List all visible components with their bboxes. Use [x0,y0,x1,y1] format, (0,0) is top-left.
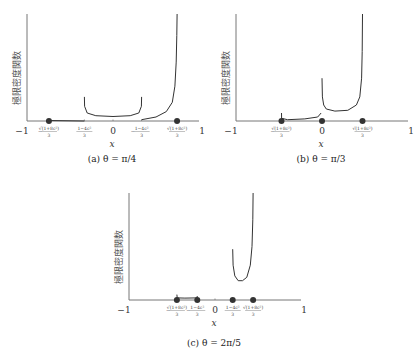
y-axis-label: 極限密度関数 [11,51,22,105]
panel-caption: (a) θ = π/4 [88,154,137,164]
density-curve-middle-u [84,97,141,117]
x-axis-label: x [109,139,114,149]
tick-denominator: 3 [140,133,143,138]
density-curve-left-flat [177,295,197,299]
tick-label-fraction: 1−4c²3 [76,126,92,138]
y-axis-label: 極限密度関数 [113,230,124,284]
density-curve-right-rise [142,14,178,120]
tick-numerator: 1−4c² [226,305,240,310]
tick-label-fraction: −√(1+8c²)3 [38,126,59,138]
x-axis-label: x [318,139,323,149]
tick-label: 1 [199,126,205,136]
chart-panel-c: 極限密度関数−1−√(1+8c²)3−1−4c²301−4c²3√(1+8c²)… [113,193,307,348]
tick-denominator: 3 [175,312,178,317]
tick-label: −1 [15,126,28,136]
tick-denominator: 3 [252,312,255,317]
tick-denominator: 3 [47,133,50,138]
tick-label-fraction: 1−4c²3 [225,305,241,317]
panel-caption: (c) θ = 2π/5 [187,338,241,348]
tick-label-fraction: −√(1+8c²)3 [270,126,291,138]
tick-denominator: 3 [176,133,179,138]
tick-label-fraction: −1−4c²3 [186,305,205,317]
tick-label: 1 [408,126,414,136]
density-curve-right-u [322,14,363,111]
panel-caption: (b) θ = π/3 [297,154,346,164]
atom-point [250,297,256,303]
tick-label: 0 [319,126,325,136]
tick-label: 0 [110,126,116,136]
tick-label-fraction: √(1+8c²)3 [243,305,263,317]
tick-denominator: 3 [280,133,283,138]
tick-numerator: √(1+8c²) [167,126,187,131]
tick-label: 0 [212,305,218,315]
tick-numerator: √(1+8c²) [167,305,187,310]
tick-numerator: 1−4c² [190,305,204,310]
tick-label-fraction: √(1+8c²)3 [167,126,187,138]
atom-point [174,297,180,303]
atom-point [174,118,180,124]
tick-label-fraction: −1−4c²3 [131,126,150,138]
atom-point [46,118,52,124]
tick-denominator: 3 [361,133,364,138]
chart-panel-b: 極限密度関数−1−√(1+8c²)30√(1+8c²)31x(b) θ = π/… [220,14,414,164]
tick-numerator: 1−4c² [77,126,91,131]
tick-label: 1 [301,305,307,315]
chart-panel-a: 極限密度関数−1−√(1+8c²)31−4c²30−1−4c²3√(1+8c²)… [11,14,205,164]
atom-point [194,297,200,303]
tick-numerator: √(1+8c²) [352,126,372,131]
atom-point [360,118,366,124]
tick-denominator: 3 [196,312,199,317]
tick-numerator: √(1+8c²) [243,305,263,310]
tick-label-fraction: √(1+8c²)3 [352,126,372,138]
tick-denominator: 3 [231,312,234,317]
x-axis-label: x [211,318,216,328]
atom-point [278,118,284,124]
atom-point [319,118,325,124]
figure: 極限密度関数−1−√(1+8c²)31−4c²30−1−4c²3√(1+8c²)… [0,0,416,360]
density-curve-left-flat [49,121,85,122]
y-axis-label: 極限密度関数 [220,51,231,105]
density-curve-left-flat [282,113,322,120]
tick-label-fraction: −√(1+8c²)3 [166,305,187,317]
atom-point [230,297,236,303]
density-curve-right-u [233,193,253,281]
tick-label: −1 [117,305,130,315]
tick-label: −1 [224,126,237,136]
tick-numerator: √(1+8c²) [271,126,291,131]
tick-numerator: √(1+8c²) [39,126,59,131]
tick-denominator: 3 [83,133,86,138]
tick-numerator: 1−4c² [135,126,149,131]
